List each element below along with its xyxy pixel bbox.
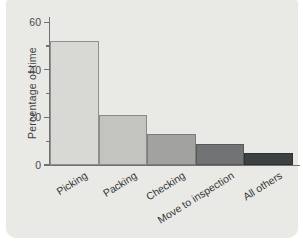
- y-tick-minor-30: [46, 93, 50, 94]
- x-label-picking: Picking: [55, 169, 90, 197]
- y-tick-label-20: 20: [15, 112, 41, 122]
- y-tick-minor-10: [46, 141, 50, 142]
- bar-picking: [50, 41, 99, 165]
- y-tick-label-40: 40: [15, 65, 41, 75]
- y-tick-major-0: [44, 164, 50, 165]
- y-tick-major-60: [44, 22, 50, 23]
- x-label-checking: Checking: [143, 169, 186, 202]
- y-tick-label-60: 60: [15, 17, 41, 27]
- y-tick-label-0: 0: [15, 160, 41, 170]
- bar-checking: [147, 134, 196, 165]
- x-label-all-others: All others: [241, 169, 284, 202]
- bar-move-to-inspection: [196, 144, 245, 165]
- chart-panel: Percentage of time 0204060 PickingPackin…: [6, 0, 298, 238]
- figure: Percentage of time 0204060 PickingPackin…: [0, 0, 303, 241]
- y-tick-major-40: [44, 69, 50, 70]
- bar-packing: [99, 115, 148, 165]
- y-axis-title: Percentage of time: [26, 33, 38, 153]
- y-tick-minor-50: [46, 45, 50, 46]
- bar-all-others: [244, 153, 293, 165]
- x-label-packing: Packing: [100, 169, 138, 199]
- y-tick-major-20: [44, 117, 50, 118]
